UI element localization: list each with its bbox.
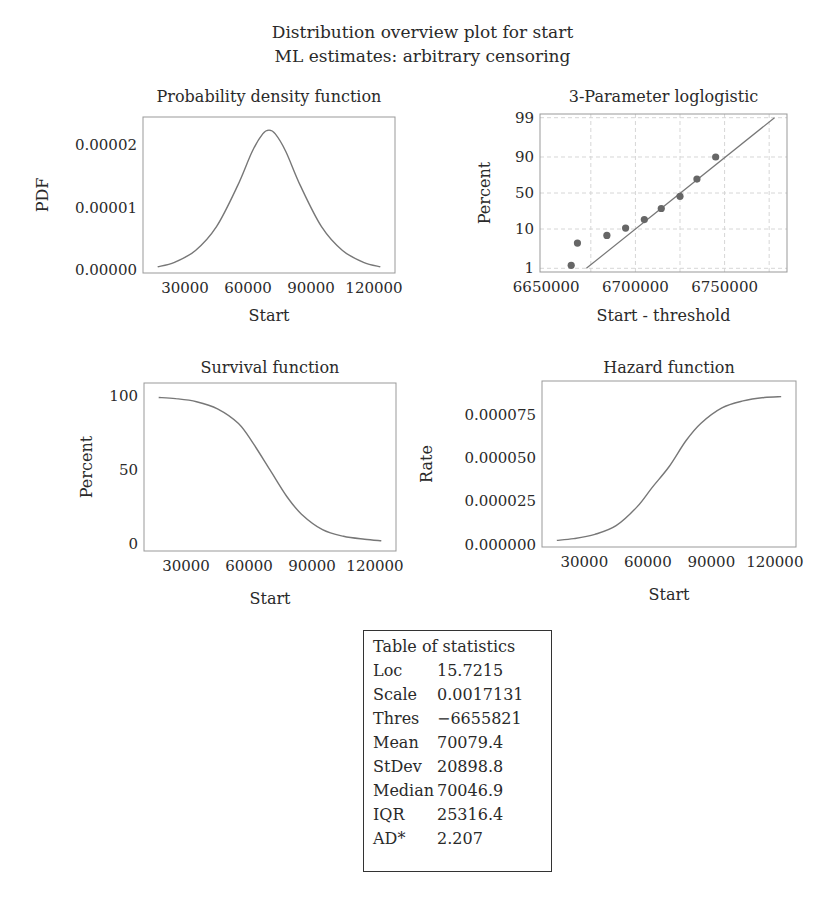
x-axis-label: Start - threshold — [597, 306, 731, 325]
stat-label: Loc — [373, 659, 437, 683]
y-axis-label: Rate — [417, 445, 436, 483]
panel-title: Hazard function — [603, 358, 734, 377]
pdf-panel: Probability density function0.000000.000… — [33, 87, 403, 325]
curve-line — [557, 397, 781, 541]
x-tick-label: 90000 — [288, 557, 336, 575]
y-tick-label: 100 — [109, 387, 138, 405]
y-tick-label: 1 — [524, 259, 534, 277]
x-tick-label: 120000 — [346, 557, 403, 575]
stat-row-loc: Loc15.7215 — [373, 659, 551, 683]
data-point — [641, 216, 648, 223]
curve-line — [159, 397, 382, 540]
stat-label: Median — [373, 779, 437, 803]
data-point — [574, 239, 581, 246]
plot-frame — [143, 117, 395, 273]
x-tick-label: 30000 — [162, 557, 210, 575]
x-tick-label: 6700000 — [602, 278, 669, 296]
y-tick-label: 0.000075 — [464, 406, 536, 424]
stat-value: 70046.9 — [437, 779, 503, 803]
stat-value: 25316.4 — [437, 803, 503, 827]
statistics-table: Table of statistics Loc15.7215 Scale0.00… — [363, 630, 552, 872]
x-tick-label: 30000 — [560, 553, 608, 571]
survival-panel: Survival function05010030000600009000012… — [77, 358, 404, 608]
x-tick-label: 120000 — [345, 279, 402, 297]
y-tick-label: 0 — [128, 535, 138, 553]
stat-row-stdev: StDev20898.8 — [373, 755, 551, 779]
y-tick-label: 0.000000 — [464, 536, 536, 554]
stat-row-median: Median70046.9 — [373, 779, 551, 803]
x-tick-label: 120000 — [746, 553, 803, 571]
data-point — [693, 176, 700, 183]
x-axis-label: Start — [648, 585, 690, 604]
data-point — [676, 193, 683, 200]
statistics-table-title: Table of statistics — [373, 635, 551, 659]
stat-value: 2.207 — [437, 827, 483, 851]
stat-row-ad: AD*2.207 — [373, 827, 551, 851]
stat-value: 20898.8 — [437, 755, 503, 779]
data-point — [603, 232, 610, 239]
curve-line — [158, 130, 381, 267]
x-tick-label: 6650000 — [513, 278, 580, 296]
y-axis-label: PDF — [33, 178, 52, 213]
stat-label: Scale — [373, 683, 437, 707]
stat-row-mean: Mean70079.4 — [373, 731, 551, 755]
stat-row-thres: Thres−6655821 — [373, 707, 551, 731]
y-tick-label: 99 — [515, 109, 534, 127]
data-point — [568, 262, 575, 269]
stat-value: 70079.4 — [437, 731, 503, 755]
stat-row-iqr: IQR25316.4 — [373, 803, 551, 827]
x-tick-label: 60000 — [225, 557, 273, 575]
x-axis-label: Start — [248, 306, 290, 325]
stat-label: StDev — [373, 755, 437, 779]
probability-plot-panel: 3-Parameter loglogistic11050909966500006… — [475, 87, 787, 325]
y-tick-label: 0.000025 — [464, 492, 536, 510]
stat-value: 0.0017131 — [437, 683, 524, 707]
stat-label: AD* — [373, 827, 437, 851]
y-tick-label: 0.00000 — [75, 261, 137, 279]
y-tick-label: 90 — [515, 148, 534, 166]
panel-title: Probability density function — [157, 87, 382, 106]
y-tick-label: 10 — [515, 220, 534, 238]
x-tick-label: 60000 — [624, 553, 672, 571]
plot-frame — [542, 381, 796, 547]
data-point — [712, 153, 719, 160]
plot-frame — [144, 383, 396, 551]
y-axis-label: Percent — [475, 161, 494, 224]
stat-value: 15.7215 — [437, 659, 503, 683]
stat-row-scale: Scale0.0017131 — [373, 683, 551, 707]
stat-label: Thres — [373, 707, 437, 731]
y-axis-label: Percent — [77, 435, 96, 498]
y-tick-label: 50 — [119, 461, 138, 479]
x-tick-label: 6750000 — [691, 278, 758, 296]
y-tick-label: 0.000050 — [464, 449, 536, 467]
data-point — [622, 225, 629, 232]
x-tick-label: 90000 — [687, 553, 735, 571]
stat-value: −6655821 — [437, 707, 522, 731]
y-tick-label: 0.00002 — [75, 136, 137, 154]
x-axis-label: Start — [249, 589, 291, 608]
stat-label: Mean — [373, 731, 437, 755]
data-point — [658, 205, 665, 212]
stat-label: IQR — [373, 803, 437, 827]
panel-title: 3-Parameter loglogistic — [569, 87, 758, 106]
y-tick-label: 50 — [515, 184, 534, 202]
y-tick-label: 0.00001 — [75, 199, 137, 217]
x-tick-label: 30000 — [161, 279, 209, 297]
panel-title: Survival function — [201, 358, 340, 377]
x-tick-label: 90000 — [287, 279, 335, 297]
x-tick-label: 60000 — [224, 279, 272, 297]
hazard-panel: Hazard function0.0000000.0000250.0000500… — [417, 358, 803, 604]
